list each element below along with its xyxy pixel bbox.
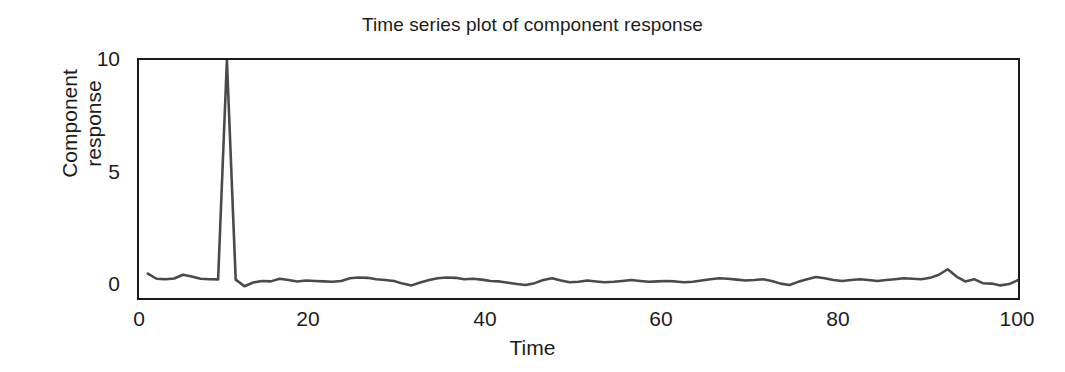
x-tick-label-60: 60 [649, 307, 672, 331]
series-line-chart [139, 60, 1018, 298]
chart-figure: Time series plot of component response C… [0, 0, 1065, 372]
x-tick-label-0: 0 [133, 307, 145, 331]
x-axis-label: Time [0, 336, 1065, 360]
y-tick-label-10: 10 [72, 47, 120, 71]
x-tick-label-100: 100 [999, 307, 1034, 331]
chart-title: Time series plot of component response [0, 14, 1065, 36]
x-tick-label-80: 80 [826, 307, 849, 331]
series-polyline [148, 60, 1018, 286]
plot-area [137, 58, 1020, 300]
y-tick-label-5: 5 [72, 160, 120, 184]
y-tick-label-0: 0 [72, 272, 120, 296]
x-tick-label-40: 40 [473, 307, 496, 331]
x-tick-label-20: 20 [296, 307, 319, 331]
